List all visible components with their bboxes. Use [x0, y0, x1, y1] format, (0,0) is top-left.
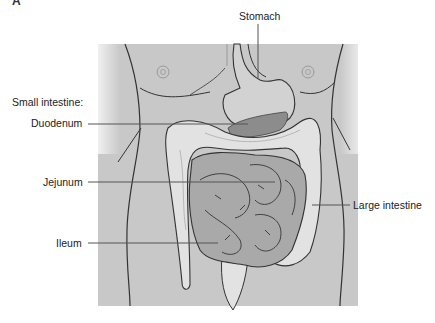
label-stomach: Stomach: [239, 10, 280, 22]
label-jejunum: Jejunum: [43, 176, 83, 188]
small-intestine: [189, 153, 306, 267]
digestive-anatomy-illustration: [0, 0, 435, 323]
label-ileum: Ileum: [56, 237, 82, 249]
label-large-intestine: Large intestine: [353, 199, 422, 211]
label-small-intestine-heading: Small intestine:: [12, 96, 83, 108]
label-duodenum: Duodenum: [31, 117, 82, 129]
